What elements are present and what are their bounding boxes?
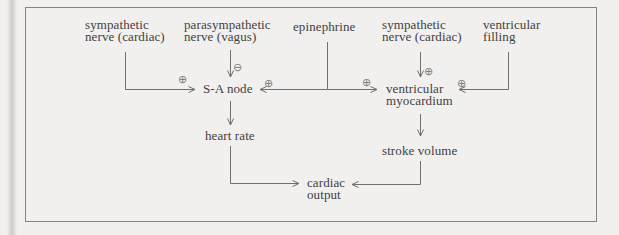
node-sa-node: S-A node: [203, 83, 253, 95]
node-label-line: myocardium: [386, 95, 453, 107]
node-label-line: nerve (cardiac): [85, 31, 165, 43]
node-label-line: heart rate: [205, 130, 255, 142]
edge-stroke-volume-to-cardiac-output: [352, 161, 421, 185]
plus-sign-sympathetic-sa-icon: ⊕: [177, 74, 188, 85]
node-parasympathetic-nerve-vagus: parasympathetic nerve (vagus): [184, 19, 271, 43]
node-label-line: epinephrine: [293, 21, 355, 33]
node-label-line: nerve (cardiac): [382, 31, 462, 43]
node-label-line: S-A node: [203, 83, 253, 95]
figure-canvas: sympathetic nerve (cardiac) parasympathe…: [0, 0, 619, 235]
node-heart-rate: heart rate: [205, 130, 255, 142]
plus-sign-epinephrine-sa-icon: ⊕: [263, 78, 274, 89]
minus-sign-parasympathetic-sa-icon: ⊖: [232, 62, 243, 73]
node-label-line: nerve (vagus): [184, 31, 271, 43]
edge-heart-rate-to-cardiac-output: [231, 146, 300, 184]
node-epinephrine: epinephrine: [293, 21, 355, 33]
node-cardiac-output: cardiac output: [307, 177, 345, 201]
node-stroke-volume: stroke volume: [382, 145, 457, 157]
node-ventricular-myocardium: ventricular myocardium: [386, 83, 453, 107]
node-label-line: filling: [483, 31, 540, 43]
node-ventricular-filling: ventricular filling: [483, 19, 540, 43]
plus-sign-epinephrine-vm-icon: ⊕: [361, 77, 372, 88]
node-sympathetic-nerve-cardiac-right: sympathetic nerve (cardiac): [382, 19, 462, 43]
plus-sign-filling-vm-icon: ⊕: [456, 78, 467, 89]
plus-sign-sympathetic-vm-icon: ⊕: [423, 66, 434, 77]
node-sympathetic-nerve-cardiac-left: sympathetic nerve (cardiac): [85, 19, 165, 43]
node-label-line: output: [307, 189, 345, 201]
node-label-line: stroke volume: [382, 145, 457, 157]
